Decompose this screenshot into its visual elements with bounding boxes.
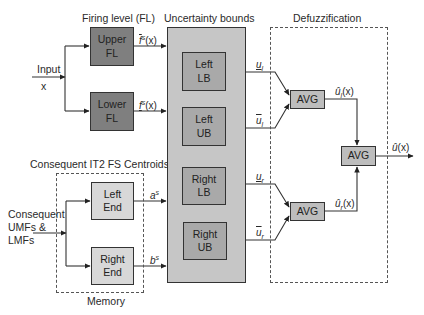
lower-fl-label-1: Lower [98,98,127,111]
b-s-signal: bs [150,254,159,266]
right-ub-block: Right UB [183,222,227,260]
input-label: Input [37,64,60,75]
right-lb-block: Right LB [182,167,226,205]
avg-right-block: AVG [290,202,325,221]
right-ub-label-1: Right [193,228,218,241]
u-r-upper-signal: ur [256,228,264,240]
memory-title: Memory [87,296,125,307]
upper-fl-label-1: Upper [98,33,127,46]
left-ub-label-1: Left [195,113,213,126]
right-ub-label-2: UB [198,241,213,254]
upper-fl-label-2: FL [106,47,118,60]
left-lb-block: Left LB [182,52,226,91]
lower-fl-label-2: FL [106,112,118,125]
consequent-label-2: UMFs & [8,222,46,233]
right-lb-label-1: Right [192,173,217,186]
right-end-label-1: Right [100,253,125,266]
right-end-block: Right End [91,247,134,285]
right-end-label-2: End [103,266,122,279]
left-lb-label-1: Left [195,58,213,71]
avg-final-block: AVG [341,146,376,166]
left-lb-label-2: LB [198,72,211,85]
u-r-lower-signal: ur [256,172,264,184]
lower-fl-block: Lower FL [90,92,134,131]
u-hat-r-signal: ûr(x) [335,199,355,211]
u-hat-l-signal: ûl(x) [335,87,354,99]
input-variable: x [41,81,46,92]
u-l-upper-signal: ul [256,116,263,128]
u-hat-output-signal: û(x) [392,143,409,153]
avg-right-label: AVG [297,205,318,218]
consequent-label-3: LMFs [8,235,34,246]
u-l-lower-signal: ul [256,60,263,72]
firing-level-title: Firing level (FL) [82,13,155,24]
defuzzification-title: Defuzzification [293,13,361,24]
left-ub-label-2: UB [197,127,212,140]
avg-left-label: AVG [297,93,318,106]
avg-left-block: AVG [290,90,325,109]
avg-final-label: AVG [348,149,369,162]
upper-fl-block: Upper FL [90,27,134,66]
consequent-centroids-title: Consequent IT2 FS Centroids [30,159,169,170]
upper-firing-signal: fs(x) [139,34,157,46]
left-ub-block: Left UB [182,107,226,146]
left-end-block: Left End [91,182,134,220]
uncertainty-bounds-title: Uncertainty bounds [164,13,254,24]
lower-firing-signal: fs(x) [139,99,157,111]
left-end-label-1: Left [104,188,122,201]
a-s-signal: as [150,189,159,201]
left-end-label-2: End [103,201,122,214]
right-lb-label-2: LB [198,186,211,199]
